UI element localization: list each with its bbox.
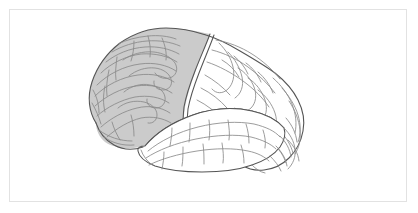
figure-root: Human brain, lateral view <box>0 0 418 213</box>
brain-lateral-view-illustration <box>0 0 418 213</box>
brainstem-hint <box>252 165 265 173</box>
